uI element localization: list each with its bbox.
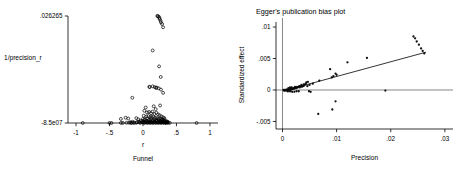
funnel-point <box>162 26 165 29</box>
egger-regression-line <box>284 52 426 91</box>
funnel-point <box>119 117 122 120</box>
egger-y-tick-label: -.005 <box>256 118 271 125</box>
funnel-y-tick-label: .026265 <box>40 12 63 19</box>
funnel-x-tick-label: -.5 <box>106 129 114 136</box>
egger-point <box>416 40 418 42</box>
funnel-point <box>127 117 130 120</box>
funnel-axes <box>65 16 218 126</box>
funnel-point <box>154 108 157 111</box>
funnel-x-tick-label: .5 <box>174 129 180 136</box>
egger-x-tick-label: .01 <box>332 135 341 142</box>
egger-reference-lines <box>276 18 453 129</box>
egger-point <box>298 90 300 92</box>
egger-point <box>420 47 422 49</box>
egger-point <box>418 44 420 46</box>
figure-container: -8.5e07.026265-1-.50.51 r Funnel 1/preci… <box>0 0 465 173</box>
egger-point <box>412 35 414 37</box>
egger-point <box>366 57 368 59</box>
egger-plot-svg: Egger's publication bias plot -.0050.005… <box>232 0 465 173</box>
funnel-point <box>162 91 165 94</box>
funnel-point <box>159 76 162 79</box>
egger-point <box>295 90 297 92</box>
egger-axes <box>273 22 453 132</box>
funnel-x-tick-label: 0 <box>141 129 145 136</box>
funnel-point <box>151 49 154 52</box>
egger-x-tick-label: .03 <box>440 135 449 142</box>
funnel-axis-labels: -8.5e07.026265-1-.50.51 <box>40 12 212 135</box>
funnel-plot-svg: -8.5e07.026265-1-.50.51 r Funnel 1/preci… <box>0 0 232 173</box>
egger-axis-labels: -.0050.005.010.01.02.03 <box>256 23 450 141</box>
egger-x-tick-label: 0 <box>281 135 285 142</box>
egger-y-tick-label: 0 <box>267 86 271 93</box>
egger-plot-title: Egger's publication bias plot <box>256 7 345 16</box>
egger-point <box>329 68 331 70</box>
funnel-plot-panel: -8.5e07.026265-1-.50.51 r Funnel 1/preci… <box>0 0 232 173</box>
funnel-y-tick-label: -8.5e07 <box>41 119 63 126</box>
funnel-point <box>131 96 134 99</box>
funnel-x-tick-label: 1 <box>208 129 212 136</box>
egger-point <box>414 37 416 39</box>
funnel-x-tick-label: -1 <box>73 129 79 136</box>
egger-point <box>291 91 293 93</box>
egger-y-tick-label: .005 <box>258 55 271 62</box>
funnel-data-points <box>81 14 198 124</box>
egger-y-axis-label: Standardized effect <box>238 46 245 103</box>
egger-point <box>422 50 424 52</box>
funnel-y-axis-label: 1/precision_r <box>4 54 43 62</box>
funnel-point <box>158 65 161 68</box>
egger-y-tick-label: .01 <box>262 23 271 30</box>
egger-point <box>335 74 337 76</box>
egger-x-axis-label: Precision <box>351 154 378 161</box>
egger-fit-line <box>284 52 426 91</box>
egger-point <box>317 113 319 115</box>
funnel-subtitle: Funnel <box>133 155 154 162</box>
egger-point <box>331 108 333 110</box>
egger-data-points <box>282 35 425 115</box>
funnel-point <box>159 104 162 107</box>
funnel-x-axis-label: r <box>142 141 145 148</box>
egger-point <box>384 89 386 91</box>
egger-point <box>334 100 336 102</box>
funnel-point <box>144 106 147 109</box>
funnel-point <box>152 105 155 108</box>
egger-point <box>346 61 348 63</box>
egger-point <box>306 85 308 87</box>
egger-plot-panel: Egger's publication bias plot -.0050.005… <box>232 0 465 173</box>
egger-x-tick-label: .02 <box>386 135 395 142</box>
egger-point <box>293 91 295 93</box>
egger-point <box>309 91 311 93</box>
